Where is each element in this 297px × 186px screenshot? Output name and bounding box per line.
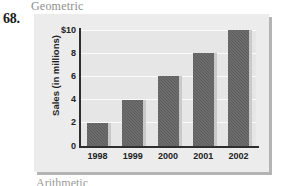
bar-chart-figure: 02468$10 Sales (in millions) 19981999200…	[34, 14, 269, 172]
y-axis-title: Sales (in millions)	[50, 16, 61, 136]
section-header-geometric: Geometric	[31, 0, 83, 14]
bar-2002	[228, 30, 249, 146]
bar-1999	[122, 100, 143, 146]
x-axis-line	[79, 146, 259, 148]
y-axis-tick-8: 8	[71, 49, 76, 58]
x-axis-tick-2002: 2002	[218, 151, 258, 161]
section-footer-arithmetic: Arithmetic	[36, 176, 88, 186]
problem-number: 68.	[3, 11, 20, 27]
x-axis-tick-2001: 2001	[183, 151, 223, 161]
bar-2001	[193, 53, 214, 146]
plot-area	[80, 30, 256, 146]
x-axis-tick-1998: 1998	[78, 151, 118, 161]
bar-2000	[158, 76, 179, 146]
y-axis-tick-6: 6	[71, 72, 76, 81]
y-axis-tick-2: 2	[71, 118, 76, 127]
x-axis-tick-1999: 1999	[113, 151, 153, 161]
bar-1998	[87, 123, 108, 146]
y-axis-tick-0: 0	[71, 142, 76, 151]
y-axis-tick-4: 4	[71, 95, 76, 104]
y-axis-tick-10: $10	[61, 26, 76, 35]
x-axis-tick-2000: 2000	[148, 151, 188, 161]
y-axis-line	[79, 28, 81, 148]
